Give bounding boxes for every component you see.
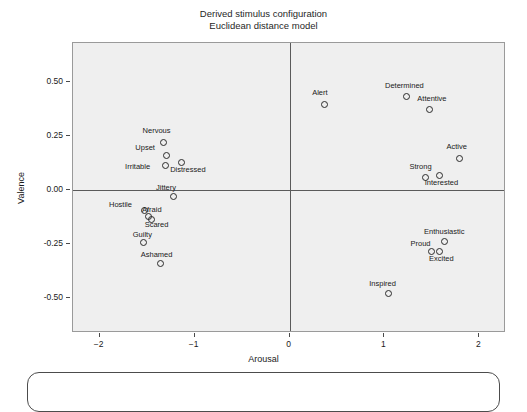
horizontal-reference-line xyxy=(73,190,504,191)
y-tick-mark xyxy=(66,81,70,82)
data-point-label: Afraid xyxy=(142,206,162,214)
x-tick-mark xyxy=(383,333,384,337)
y-tick-label: 0.50 xyxy=(46,76,63,86)
y-tick-label: -0.25 xyxy=(44,238,63,248)
data-point-label: Inspired xyxy=(369,280,396,288)
data-point xyxy=(385,290,392,297)
x-tick-label: 1 xyxy=(381,339,386,349)
data-point-label: Hostile xyxy=(109,201,132,209)
y-tick-label: -0.50 xyxy=(44,292,63,302)
x-tick-label: 0 xyxy=(286,339,291,349)
data-point-label: Determined xyxy=(385,82,424,90)
data-point-label: Attentive xyxy=(417,95,446,103)
data-point-label: Alert xyxy=(312,89,327,97)
y-tick-mark xyxy=(66,297,70,298)
data-point-label: Distressed xyxy=(170,166,205,174)
data-point-label: Proud xyxy=(411,240,431,248)
chart-title: Derived stimulus configuration xyxy=(0,8,527,20)
data-point-label: Active xyxy=(446,143,466,151)
data-point xyxy=(140,239,147,246)
data-point-label: Irritable xyxy=(125,163,150,171)
y-tick-label: 0.25 xyxy=(46,130,63,140)
vertical-reference-line xyxy=(290,43,291,331)
y-tick-mark xyxy=(66,135,70,136)
x-tick-label: −2 xyxy=(94,339,104,349)
data-point xyxy=(441,238,448,245)
data-point xyxy=(456,155,463,162)
data-point xyxy=(321,101,328,108)
data-point-label: Nervous xyxy=(143,127,171,135)
data-point-label: Interested xyxy=(425,179,458,187)
data-point xyxy=(403,93,410,100)
data-point xyxy=(160,139,167,146)
bottom-panel-frame xyxy=(27,372,500,412)
x-tick-mark xyxy=(478,333,479,337)
data-point xyxy=(157,260,164,267)
data-point-label: Strong xyxy=(409,163,431,171)
data-point xyxy=(170,193,177,200)
data-point-label: Enthusiastic xyxy=(424,228,464,236)
chart-title-block: Derived stimulus configuration Euclidean… xyxy=(0,8,527,32)
x-tick-mark xyxy=(99,333,100,337)
data-point xyxy=(426,106,433,113)
data-point-label: Jittery xyxy=(156,184,176,192)
data-point-label: Excited xyxy=(429,255,454,263)
data-point xyxy=(162,162,169,169)
data-point-label: Guilty xyxy=(133,231,152,239)
y-axis-label: Valence xyxy=(16,172,26,204)
plot-panel: NervousUpsetIrritableDistressedJitteryHo… xyxy=(72,42,505,332)
data-point-label: Upset xyxy=(135,144,155,152)
y-tick-mark xyxy=(66,189,70,190)
x-tick-label: −1 xyxy=(189,339,199,349)
data-point xyxy=(163,152,170,159)
data-point-label: Scared xyxy=(145,221,169,229)
x-axis-label: Arousal xyxy=(0,354,527,364)
y-tick-mark xyxy=(66,243,70,244)
x-tick-mark xyxy=(194,333,195,337)
x-tick-label: 2 xyxy=(476,339,481,349)
data-point-label: Ashamed xyxy=(141,251,173,259)
y-tick-label: 0.00 xyxy=(46,184,63,194)
x-tick-mark xyxy=(289,333,290,337)
chart-subtitle: Euclidean distance model xyxy=(0,20,527,32)
